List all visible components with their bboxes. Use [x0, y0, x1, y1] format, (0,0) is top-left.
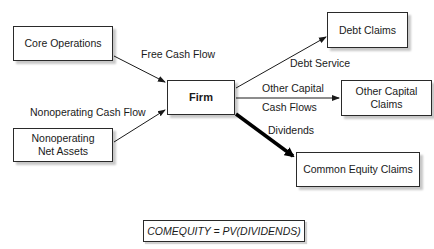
common-equity-claims-label: Common Equity Claims — [303, 163, 413, 176]
other-capital-claims-line2: Claims — [370, 98, 402, 111]
equation-box: COMEQUITY = PV(DIVIDENDS) — [143, 220, 305, 242]
other-capital-label-line1: Other Capital — [262, 82, 324, 94]
other-capital-label-line2: Cash Flows — [262, 101, 317, 113]
nonoperating-label-line2: Net Assets — [38, 145, 88, 158]
debt-service-label: Debt Service — [290, 57, 350, 69]
debt-claims-node: Debt Claims — [327, 12, 408, 48]
nonoperating-label-line1: Nonoperating — [31, 132, 94, 145]
equation-text: COMEQUITY = PV(DIVIDENDS) — [147, 225, 301, 237]
other-capital-claims-line1: Other Capital — [356, 85, 418, 98]
core-operations-label: Core Operations — [24, 37, 101, 50]
nonoperating-net-assets-node: Nonoperating Net Assets — [13, 128, 113, 162]
core-operations-node: Core Operations — [13, 26, 113, 61]
common-equity-claims-node: Common Equity Claims — [296, 152, 420, 187]
nonoperating-cash-flow-label: Nonoperating Cash Flow — [30, 106, 146, 118]
other-capital-claims-node: Other Capital Claims — [341, 80, 432, 116]
debt-claims-label: Debt Claims — [339, 24, 396, 37]
firm-label: Firm — [189, 91, 213, 104]
free-cash-flow-label: Free Cash Flow — [141, 48, 215, 60]
firm-node: Firm — [167, 80, 235, 115]
dividends-label: Dividends — [268, 124, 314, 136]
